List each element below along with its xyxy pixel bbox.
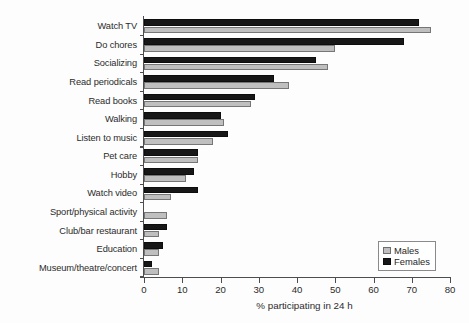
x-axis-tick-label: 50 xyxy=(330,284,341,295)
category-label: Walking xyxy=(105,114,137,124)
category-label: Hobby xyxy=(111,170,137,180)
bar-females xyxy=(144,94,255,101)
x-axis-tick xyxy=(297,278,298,283)
x-axis-tick xyxy=(335,278,336,283)
category-row: Hobby xyxy=(144,166,450,185)
chart-legend: Males Females xyxy=(378,241,436,271)
bar-females xyxy=(144,168,194,175)
x-axis-tick-label: 30 xyxy=(253,284,264,295)
legend-item-females: Females xyxy=(383,256,430,267)
bar-females xyxy=(144,224,167,231)
category-label: Socializing xyxy=(94,58,137,68)
x-axis-tick xyxy=(374,278,375,283)
x-axis-tick-label: 0 xyxy=(141,284,146,295)
bar-males xyxy=(144,27,431,34)
category-label: Pet care xyxy=(103,151,137,161)
bar-males xyxy=(144,45,335,52)
bar-males xyxy=(144,157,198,164)
category-label: Listen to music xyxy=(76,133,137,143)
bar-males xyxy=(144,82,289,89)
bar-females xyxy=(144,38,404,45)
category-row: Do chores xyxy=(144,36,450,55)
bar-females xyxy=(144,57,316,64)
bar-females xyxy=(144,149,198,156)
x-axis-tick xyxy=(144,278,145,283)
bar-females xyxy=(144,19,419,26)
plot-area: Watch TVDo choresSocializingRead periodi… xyxy=(144,17,450,277)
category-label: Read periodicals xyxy=(69,77,137,87)
legend-swatch-males-icon xyxy=(383,247,391,255)
category-label: Club/bar restaurant xyxy=(59,226,137,236)
bar-females xyxy=(144,187,198,194)
category-row: Listen to music xyxy=(144,128,450,147)
x-axis-tick xyxy=(259,278,260,283)
x-axis-tick-label: 60 xyxy=(368,284,379,295)
category-row: Read periodicals xyxy=(144,73,450,92)
bar-males xyxy=(144,119,224,126)
category-row: Walking xyxy=(144,110,450,129)
category-row: Watch video xyxy=(144,184,450,203)
x-axis-title: % participating in 24 h xyxy=(0,300,469,311)
bar-males xyxy=(144,64,328,71)
bar-males xyxy=(144,249,159,256)
category-label: Education xyxy=(97,244,137,254)
bar-females xyxy=(144,261,152,268)
bar-males xyxy=(144,138,213,145)
x-axis-tick-label: 40 xyxy=(292,284,303,295)
x-axis-tick-label: 10 xyxy=(177,284,188,295)
category-row: Sport/physical activity xyxy=(144,203,450,222)
category-row: Club/bar restaurant xyxy=(144,221,450,240)
bar-males xyxy=(144,268,159,275)
bar-females xyxy=(144,131,228,138)
category-label: Museum/theatre/concert xyxy=(39,263,137,273)
category-label: Watch video xyxy=(87,188,137,198)
x-axis-tick xyxy=(221,278,222,283)
x-axis-tick-label: 20 xyxy=(215,284,226,295)
legend-label-females: Females xyxy=(394,256,430,267)
bar-males xyxy=(144,212,167,219)
x-axis-tick xyxy=(182,278,183,283)
bar-females xyxy=(144,242,163,249)
category-label: Do chores xyxy=(96,40,137,50)
category-label: Sport/physical activity xyxy=(50,207,137,217)
category-label: Watch TV xyxy=(98,21,138,31)
category-row: Read books xyxy=(144,91,450,110)
legend-swatch-females-icon xyxy=(383,258,391,266)
legend-item-males: Males xyxy=(383,245,430,256)
category-row: Pet care xyxy=(144,147,450,166)
x-axis-tick xyxy=(450,278,451,283)
category-row: Socializing xyxy=(144,54,450,73)
bar-chart: Watch TVDo choresSocializingRead periodi… xyxy=(0,0,469,323)
bar-males xyxy=(144,101,251,108)
category-label: Read books xyxy=(88,96,137,106)
category-row: Watch TV xyxy=(144,17,450,36)
bar-females xyxy=(144,112,221,119)
x-axis-tick-label: 80 xyxy=(445,284,456,295)
x-axis-tick xyxy=(412,278,413,283)
bar-males xyxy=(144,175,186,182)
bar-males xyxy=(144,231,159,238)
bar-males xyxy=(144,194,171,201)
legend-label-males: Males xyxy=(394,245,419,256)
bar-females xyxy=(144,75,274,82)
x-axis-tick-label: 70 xyxy=(406,284,417,295)
